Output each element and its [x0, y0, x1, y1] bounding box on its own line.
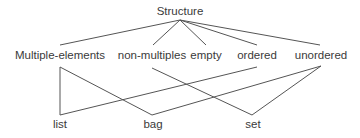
node-non-multiples: non-multiples — [118, 50, 186, 62]
node-multiple-elements: Multiple-elements — [15, 50, 105, 62]
node-bag: bag — [143, 119, 162, 131]
node-empty: empty — [190, 50, 221, 62]
edge-multiple-elements-bag — [60, 67, 152, 115]
node-list: list — [53, 119, 67, 131]
edge-non-multiples-set — [152, 68, 252, 115]
node-unordered: unordered — [295, 50, 347, 62]
edge-structure-ordered — [180, 20, 257, 45]
edge-structure-multiple-elements — [60, 20, 180, 45]
node-ordered: ordered — [237, 50, 277, 62]
edge-structure-unordered — [180, 20, 320, 45]
structure-diagram: Structure Multiple-elements non-multiple… — [0, 0, 360, 138]
edge-structure-non-multiples — [153, 20, 180, 45]
node-set: set — [245, 119, 260, 131]
edge-ordered-list — [60, 67, 257, 115]
node-structure: Structure — [157, 6, 204, 18]
edge-unordered-set — [252, 66, 321, 115]
